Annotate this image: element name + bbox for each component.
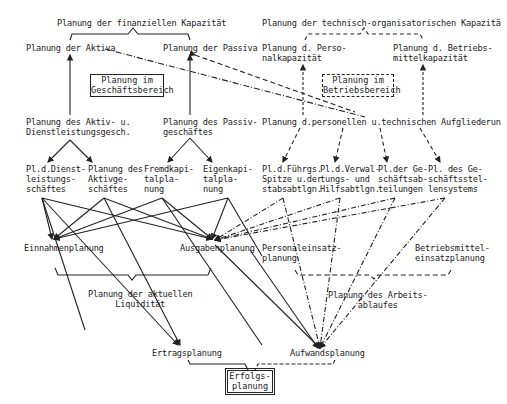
planung-passiv-geschaefte: Planung des Passiv- geschäftes xyxy=(163,117,258,137)
tech-sub-0: Pl.d.Führgs. Spitze u.der stabsabtlgn. xyxy=(262,164,322,194)
aufwandsplanung: Aufwandsplanung xyxy=(290,348,365,358)
tech-sub-3: Pl. des Ge- schäftsstel- lensystems xyxy=(428,164,488,194)
fin-sub-3: Eigenkapi- talpla- nung xyxy=(203,164,253,194)
planung-aktiv-geschaefte: Planung des Aktiv- u. Dienstleistungsges… xyxy=(26,117,130,137)
betriebsmitteleinsatzplanung: Betriebsmittel- einsatzplanung xyxy=(415,243,490,263)
planung-aktiva: Planung der Aktiva xyxy=(26,43,116,53)
liquiditaetsplanung: Planung der aktuellen Liquidität xyxy=(88,289,192,309)
fin-sub-2: Fremdkapi- talpla- nung xyxy=(144,164,194,194)
financial-title: Planung der finanziellen Kapazität xyxy=(57,18,226,28)
box-geschaeftsbereich: Planung im Geschäftsbereich xyxy=(90,74,164,97)
einnahmenplanung: Einnahmenplanung xyxy=(24,243,104,253)
ausgabenplanung: Ausgabenplanung xyxy=(180,243,255,253)
tech-sub-2: Pl.der Ge- schäftsab- teilungen xyxy=(378,164,428,194)
personaleinsatzplanung: Personaleinsatz- planung xyxy=(262,243,342,263)
box-betriebsbereich: Planung im Betriebsbereich xyxy=(322,74,394,97)
planung-aufgliederung: Planung d.personellen u.technischen Aufg… xyxy=(262,117,501,127)
planung-betriebsmittelkapazitaet: Planung d. Betriebs- mittelkapazität xyxy=(393,43,492,63)
planung-personalkapazitaet: Planung d. Perso- nalkapazität xyxy=(262,43,347,63)
fin-sub-1: Planung des Aktivge- schäftes xyxy=(88,164,143,194)
planung-passiva: Planung der Passiva xyxy=(163,43,258,53)
fin-sub-0: Pl.d.Dienst- leistungs- schäftes xyxy=(26,164,86,194)
ertragsplanung: Ertragsplanung xyxy=(152,348,222,358)
tech-sub-1: Pl.d.Verwal- tungs- und Hilfsabtlgn. xyxy=(320,164,380,194)
technical-title: Planung der technisch-organisatorischen … xyxy=(262,18,501,28)
arbeitsablaufplanung: Planung des Arbeits- ablaufes xyxy=(328,290,427,310)
box-erfolgsplanung: Erfolgs- planung xyxy=(225,368,275,395)
